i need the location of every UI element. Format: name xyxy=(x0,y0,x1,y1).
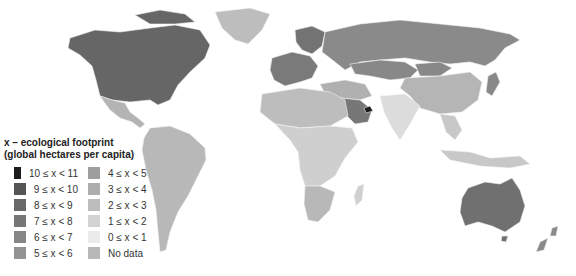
region-north-america xyxy=(68,25,210,105)
legend-grid: 10 ≤ x < 11 9 ≤ x < 10 8 ≤ x < 9 7 ≤ x <… xyxy=(4,167,224,259)
legend-label: 1 ≤ x < 2 xyxy=(108,216,147,227)
legend-item: 2 ≤ x < 3 xyxy=(78,199,168,211)
legend-swatch xyxy=(14,247,26,259)
legend-item: 7 ≤ x < 8 xyxy=(4,215,78,227)
legend-label: 6 ≤ x < 7 xyxy=(34,232,73,243)
region-mongolia xyxy=(415,62,452,76)
region-greenland xyxy=(215,8,270,44)
legend-label: 4 ≤ x < 5 xyxy=(108,168,147,179)
legend-swatch xyxy=(14,231,26,243)
legend-label: 9 ≤ x < 10 xyxy=(34,184,78,195)
legend-label: No data xyxy=(108,248,143,259)
legend-label: 2 ≤ x < 3 xyxy=(108,200,147,211)
region-central-asia xyxy=(350,60,418,80)
region-scandinavia xyxy=(295,26,325,54)
region-southern-africa xyxy=(304,186,335,222)
legend-swatch xyxy=(88,183,100,195)
region-india xyxy=(380,94,420,140)
legend-swatch xyxy=(88,167,100,179)
legend-swatch xyxy=(14,167,21,179)
legend-label: 3 ≤ x < 4 xyxy=(108,184,147,195)
legend-item: 5 ≤ x < 6 xyxy=(4,247,78,259)
legend-title-line2: (global hectares per capita) xyxy=(4,149,224,161)
region-new-zealand xyxy=(536,226,558,252)
legend-swatch xyxy=(14,215,26,227)
legend-label: 8 ≤ x < 9 xyxy=(34,200,73,211)
region-southeast-asia xyxy=(440,114,462,140)
legend-swatch xyxy=(14,199,26,211)
region-russia xyxy=(322,20,520,70)
legend-label: 7 ≤ x < 8 xyxy=(34,216,73,227)
map-legend: x – ecological footprint (global hectare… xyxy=(4,137,224,259)
legend-swatch xyxy=(88,199,100,211)
legend-item: 9 ≤ x < 10 xyxy=(4,183,78,195)
legend-item: 8 ≤ x < 9 xyxy=(4,199,78,211)
legend-swatch xyxy=(88,247,100,259)
region-africa-sub-saharan xyxy=(275,124,358,186)
legend-item: 10 ≤ x < 11 xyxy=(4,167,78,179)
region-australia xyxy=(460,178,525,232)
legend-label: 5 ≤ x < 6 xyxy=(34,248,73,259)
region-japan xyxy=(486,72,500,96)
legend-swatch xyxy=(88,215,100,227)
legend-item: No data xyxy=(78,247,168,259)
legend-item: 6 ≤ x < 7 xyxy=(4,231,78,243)
legend-item: 3 ≤ x < 4 xyxy=(78,183,168,195)
region-europe-west xyxy=(270,52,318,86)
legend-item: 4 ≤ x < 5 xyxy=(78,167,168,179)
legend-item: 0 ≤ x < 1 xyxy=(78,231,168,243)
legend-swatch xyxy=(14,183,26,195)
legend-label: 0 ≤ x < 1 xyxy=(108,232,147,243)
region-madagascar xyxy=(354,184,364,206)
region-tasmania xyxy=(501,236,508,242)
legend-swatch xyxy=(88,231,100,243)
legend-item: 1 ≤ x < 2 xyxy=(78,215,168,227)
legend-label: 10 ≤ x < 11 xyxy=(29,168,78,179)
legend-title-line1: x – ecological footprint xyxy=(4,137,224,149)
region-canada-arctic xyxy=(135,10,195,24)
region-indonesia xyxy=(440,150,530,168)
